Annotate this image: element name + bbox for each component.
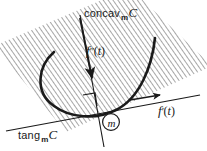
- concav-word: concav: [84, 7, 120, 19]
- label-velocity: f′(t): [158, 104, 175, 117]
- point-m-text: m: [108, 117, 116, 129]
- point-m-label: m: [103, 114, 120, 131]
- concav-set: C: [128, 5, 137, 20]
- tang-subscript: m: [40, 135, 48, 144]
- label-concavity: concavmC: [84, 6, 137, 22]
- velocity-close-paren: ): [171, 104, 175, 118]
- label-acceleration: f″(t): [86, 44, 105, 57]
- tang-set: C: [49, 127, 58, 142]
- figure-canvas: m concavmC tangmC f′(t) f″(t): [0, 0, 207, 151]
- label-tangent: tangmC: [18, 128, 57, 144]
- tang-word: tang: [18, 129, 40, 141]
- acceleration-close-paren: ): [101, 44, 105, 58]
